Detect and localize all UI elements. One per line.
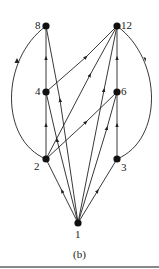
edge-2-6: [46, 92, 117, 159]
node-2: [42, 155, 49, 162]
node-label-3: 3: [121, 162, 127, 173]
node-1: [74, 219, 81, 226]
edge-1-8: [46, 26, 78, 223]
figure-caption: (b): [0, 248, 159, 260]
node-label-6: 6: [121, 86, 127, 97]
edge-4-12: [46, 26, 117, 92]
node-3: [113, 155, 120, 162]
node-label-2: 2: [34, 161, 40, 172]
node-6: [113, 88, 120, 95]
node-label-12: 12: [121, 20, 132, 31]
bottom-rule: [0, 266, 159, 268]
node-12: [113, 22, 120, 29]
node-label-8: 8: [35, 20, 41, 31]
edge-1-6: [78, 92, 117, 223]
edge-2-12: [46, 26, 117, 159]
node-4: [42, 88, 49, 95]
node-label-4: 4: [35, 86, 41, 97]
node-label-1: 1: [75, 229, 81, 240]
node-8: [42, 22, 49, 29]
